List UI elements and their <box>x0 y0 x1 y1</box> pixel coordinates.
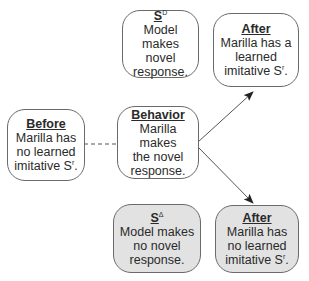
sd-superscript: D <box>162 9 167 16</box>
behavior-node: Behavior Marilla makes the novel respons… <box>117 106 199 179</box>
after-bottom-line-3: imitative Sr. <box>225 253 288 267</box>
after-top-line-3: imitative Sr. <box>224 64 287 78</box>
sdelta-line-1: Model makes <box>120 225 194 239</box>
sd-line-1: Model <box>143 23 177 37</box>
after-top-node: After Marilla has a learned imitative Sr… <box>213 13 299 87</box>
after-bottom-node: After Marilla has no learned imitative S… <box>215 205 299 273</box>
after-top-line-2: learned <box>235 50 277 64</box>
sdelta-line-3: response. <box>130 253 185 267</box>
after-top-line-1: Marilla has a <box>221 36 292 50</box>
sdelta-title: SΔ <box>150 211 163 225</box>
sd-line-3: response. <box>133 65 188 79</box>
after-bottom-title: After <box>242 211 271 225</box>
behavior-line-2: the novel <box>133 150 184 164</box>
before-line-1: Marilla has <box>16 131 76 145</box>
before-title: Before <box>26 117 66 131</box>
before-line-2: no learned <box>16 145 75 159</box>
after-bottom-line-1: Marilla has <box>227 225 287 239</box>
before-line-3: imitative Sr. <box>14 159 77 173</box>
behavior-title: Behavior <box>131 108 185 122</box>
before-node: Before Marilla has no learned imitative … <box>7 109 85 181</box>
sdelta-node: SΔ Model makes no novel response. <box>113 204 201 273</box>
arrow-to-after-top <box>198 92 253 142</box>
sd-title: SD <box>154 9 167 23</box>
after-bottom-line-2: no learned <box>227 239 286 253</box>
arrow-to-after-bottom <box>198 147 253 203</box>
sd-line-2: makes novel <box>127 37 194 65</box>
after-top-title: After <box>241 22 270 36</box>
behavior-line-3: response. <box>131 164 186 178</box>
sdelta-superscript: Δ <box>159 210 164 217</box>
behavior-line-1: Marilla makes <box>122 122 194 150</box>
sdelta-line-2: no novel <box>133 239 180 253</box>
sd-node: SD Model makes novel response. <box>122 10 199 78</box>
